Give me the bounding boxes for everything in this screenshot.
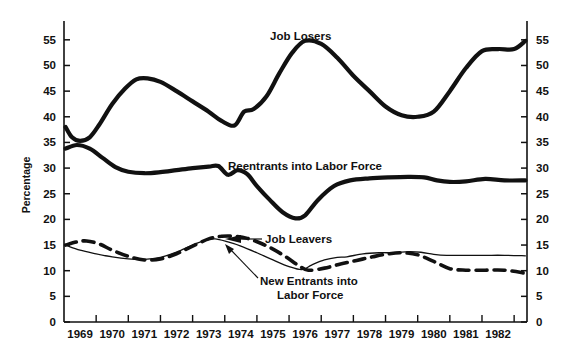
y-tick-label-left: 40 [43, 111, 56, 123]
y-tick-label-right: 55 [536, 34, 549, 46]
y-tick-label-right: 40 [536, 111, 549, 123]
unemployment-composition-line-chart: 0055101015152020252530303535404045455050… [0, 0, 576, 359]
y-tick-label-left: 10 [43, 265, 56, 277]
y-tick-label-left: 30 [43, 162, 56, 174]
y-tick-label-right: 10 [536, 265, 549, 277]
x-tick-label: 1978 [357, 328, 383, 340]
x-tick-label: 1977 [325, 328, 351, 340]
series-annotation-new-entrants-line1: New Entrants into [260, 275, 358, 287]
y-tick-label-left: 5 [50, 290, 57, 302]
x-tick-label: 1970 [99, 328, 125, 340]
y-axis-title: Percentage [20, 157, 32, 214]
y-tick-label-right: 30 [536, 162, 549, 174]
series-annotation-new-entrants-line2: Labor Force [277, 289, 343, 301]
x-tick-label: 1982 [485, 328, 511, 340]
y-tick-label-right: 45 [536, 85, 549, 97]
x-tick-label: 1981 [453, 328, 479, 340]
y-tick-label-left: 55 [43, 34, 56, 46]
y-tick-label-left: 50 [43, 59, 56, 71]
y-tick-label-left: 20 [43, 213, 56, 225]
x-tick-label: 1973 [196, 328, 222, 340]
x-tick-label: 1975 [260, 328, 286, 340]
y-tick-label-left: 0 [50, 316, 56, 328]
x-tick-label: 1972 [164, 328, 190, 340]
y-tick-label-right: 25 [536, 188, 549, 200]
y-tick-label-left: 15 [43, 239, 56, 251]
chart-container: 0055101015152020252530303535404045455050… [0, 0, 576, 359]
y-tick-label-right: 5 [536, 290, 543, 302]
series-annotation-reentrants: Reentrants into Labor Force [228, 160, 382, 172]
y-tick-label-right: 20 [536, 213, 549, 225]
x-tick-label: 1979 [389, 328, 415, 340]
y-tick-label-right: 0 [536, 316, 542, 328]
y-tick-label-left: 45 [43, 85, 56, 97]
x-tick-label: 1969 [67, 328, 93, 340]
y-tick-label-right: 15 [536, 239, 549, 251]
y-tick-label-left: 35 [43, 136, 56, 148]
x-tick-label: 1971 [132, 328, 158, 340]
y-tick-label-right: 50 [536, 59, 549, 71]
y-tick-label-left: 25 [43, 188, 56, 200]
x-tick-label: 1974 [228, 328, 254, 340]
y-tick-label-right: 35 [536, 136, 549, 148]
series-annotation-job-leavers: Job Leavers [265, 233, 332, 245]
x-tick-label: 1980 [421, 328, 447, 340]
series-annotation-job-losers: Job Losers [270, 30, 331, 42]
x-tick-label: 1976 [292, 328, 318, 340]
